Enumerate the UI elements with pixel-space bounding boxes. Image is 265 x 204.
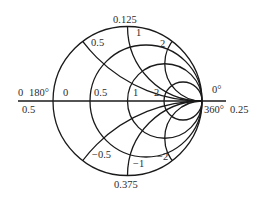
- smith-chart: 0.125 0.375 0.25 0.5 0 180° 0° 360° 0 0.…: [0, 0, 264, 204]
- label-x1-negative: −1: [133, 158, 144, 169]
- label-x05-negative: −0.5: [92, 149, 111, 160]
- label-r0: 0: [63, 87, 68, 98]
- label-r05: 0.5: [94, 87, 107, 98]
- label-right-angle-bottom: 360°: [204, 104, 224, 115]
- reactance-arc-1: [128, 0, 265, 101]
- label-x05-positive: 0.5: [91, 37, 104, 48]
- label-r2: 2: [154, 87, 159, 98]
- label-top-wavelength: 0.125: [113, 14, 137, 25]
- label-left-angle: 180°: [29, 87, 49, 98]
- reactance-arc-neg-2: [165, 101, 240, 176]
- label-left-zero: 0: [18, 87, 23, 98]
- reactance-arc-0.5: [53, 0, 264, 101]
- label-x2-positive: 2: [160, 38, 165, 49]
- label-left-wavelength: 0.5: [22, 104, 35, 115]
- label-right-angle-top: 0°: [212, 84, 221, 95]
- label-bottom-wavelength: 0.375: [114, 179, 138, 190]
- reactance-arc-neg-1: [128, 101, 265, 204]
- label-x1-positive: 1: [136, 27, 141, 38]
- label-x2-negative: −2: [157, 151, 168, 162]
- label-right-wavelength: 0.25: [230, 104, 248, 115]
- label-r1: 1: [133, 87, 138, 98]
- reactance-arc-2: [165, 27, 240, 102]
